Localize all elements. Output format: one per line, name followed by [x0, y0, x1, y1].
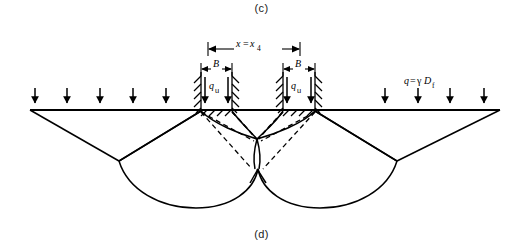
surcharge-label-equals: = [410, 75, 416, 86]
failure-dashed-right-2 [263, 112, 315, 169]
failure-inner-stem-right [257, 139, 260, 169]
spacing-label-equals: = [243, 38, 249, 49]
surcharge-label-q: q [404, 75, 409, 86]
spacing-label-subscript: 4 [257, 44, 261, 53]
width-dim-right-arrow-left [283, 66, 290, 72]
surcharge-label-D: D [423, 75, 432, 86]
failure-surface-left-outer [119, 111, 258, 208]
right-footing-right-hatch [315, 76, 322, 113]
surcharge-arrow-group [35, 88, 484, 103]
spacing-dim-arrow-left [208, 46, 216, 53]
surcharge-label-subscript: f [432, 81, 435, 90]
width-dim-left-arrow-right [225, 66, 232, 72]
bearing-pressure-label-left: q u [209, 80, 219, 95]
figure-caption-c: (c) [0, 2, 523, 14]
failure-inner-stem-left [254, 139, 257, 169]
left-footing-left-hatch [194, 76, 201, 113]
width-label-left: B [213, 58, 219, 69]
width-dimension-right: B [283, 58, 315, 76]
failure-dashed-left-2 [201, 112, 252, 169]
bearing-capacity-diagram: x = x 4 B B q u [0, 0, 523, 248]
bearing-pressure-label-right: q u [291, 80, 301, 95]
qu-label-right-q: q [291, 80, 296, 91]
failure-surface-right-outer [258, 111, 397, 208]
qu-label-left-sub: u [215, 86, 219, 95]
width-dimension-left: B [201, 58, 232, 76]
qu-label-right-sub: u [297, 86, 301, 95]
surcharge-label-gamma: γ [416, 75, 422, 86]
width-dim-right-arrow-right [308, 66, 315, 72]
spacing-label-x2: x [249, 38, 255, 49]
failure-radial-right-outer [315, 111, 397, 161]
failure-radial-left-outer [119, 111, 201, 161]
figure-root: (c) [0, 0, 523, 248]
spacing-dimension: x = x 4 [208, 38, 300, 56]
left-footing-right-hatch [232, 76, 239, 113]
right-footing-left-hatch [276, 76, 283, 113]
width-label-right: B [295, 58, 301, 69]
failure-surface-group [30, 110, 500, 208]
width-dim-left-arrow-left [201, 66, 208, 72]
surcharge-label: q = γ D f [404, 75, 435, 90]
spacing-label-x1: x [235, 38, 241, 49]
spacing-dim-arrow-right [292, 46, 300, 53]
failure-inner-right-wide [257, 111, 315, 139]
qu-label-left-q: q [209, 80, 214, 91]
failure-slipline-right-toe [397, 110, 500, 161]
failure-slipline-left-toe [30, 110, 119, 161]
figure-caption-d: (d) [0, 228, 523, 240]
